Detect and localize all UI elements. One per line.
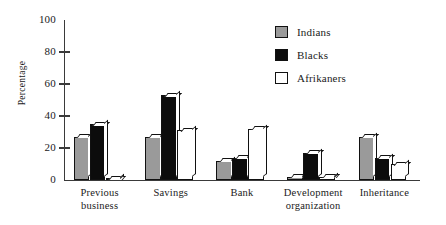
bar-indians-2 [145, 137, 161, 180]
y-tick-label-20: 20 [18, 142, 56, 153]
category-label-line: Inheritance [329, 186, 439, 199]
y-tick-label-80: 80 [18, 46, 56, 57]
y-tick-label-40: 40 [18, 110, 56, 121]
bar-blacks-4 [303, 153, 319, 180]
bar-side-face [318, 148, 322, 177]
bar-indians-4 [287, 177, 303, 180]
bar-side-face [104, 120, 108, 177]
legend-item-indians[interactable]: Indians [275, 22, 346, 41]
bar-chart: Percentage 100806040200 Previousbusiness… [0, 0, 446, 225]
bar-afrikaners-1 [106, 178, 122, 180]
category-label-line: organization [258, 199, 368, 212]
plot-area [64, 20, 420, 180]
bar-side-face [192, 126, 196, 177]
y-tick-label-100: 100 [18, 14, 56, 25]
bar-afrikaners-2 [177, 130, 193, 180]
bar-group [216, 20, 264, 180]
legend-swatch-icon [275, 72, 288, 84]
bar-blacks-5 [375, 158, 391, 180]
legend-swatch-icon [275, 26, 288, 38]
bar-indians-5 [359, 137, 375, 180]
legend-label: Afrikaners [297, 72, 346, 84]
legend-label: Blacks [297, 49, 328, 61]
bar-afrikaners-3 [248, 129, 264, 180]
category-label-line: business [45, 199, 155, 212]
category-label-5: Inheritance [329, 186, 439, 199]
bar-side-face [263, 124, 267, 177]
bar-blacks-3 [232, 158, 248, 180]
bar-side-face [405, 160, 409, 177]
bar-group [74, 20, 122, 180]
x-axis-line [64, 180, 420, 181]
legend-item-blacks[interactable]: Blacks [275, 45, 346, 64]
legend: IndiansBlacksAfrikaners [275, 22, 346, 91]
bar-indians-1 [74, 137, 90, 180]
legend-item-afrikaners[interactable]: Afrikaners [275, 68, 346, 87]
y-tick-label-60: 60 [18, 78, 56, 89]
legend-label: Indians [297, 26, 331, 38]
bar-group [359, 20, 407, 180]
bar-afrikaners-5 [391, 164, 407, 180]
bar-blacks-1 [90, 124, 106, 180]
y-tick-label-0: 0 [18, 174, 56, 185]
bar-indians-3 [216, 161, 232, 180]
bar-group [145, 20, 193, 180]
legend-swatch-icon [275, 49, 288, 61]
bar-blacks-2 [161, 95, 177, 180]
bar-afrikaners-4 [319, 177, 335, 180]
